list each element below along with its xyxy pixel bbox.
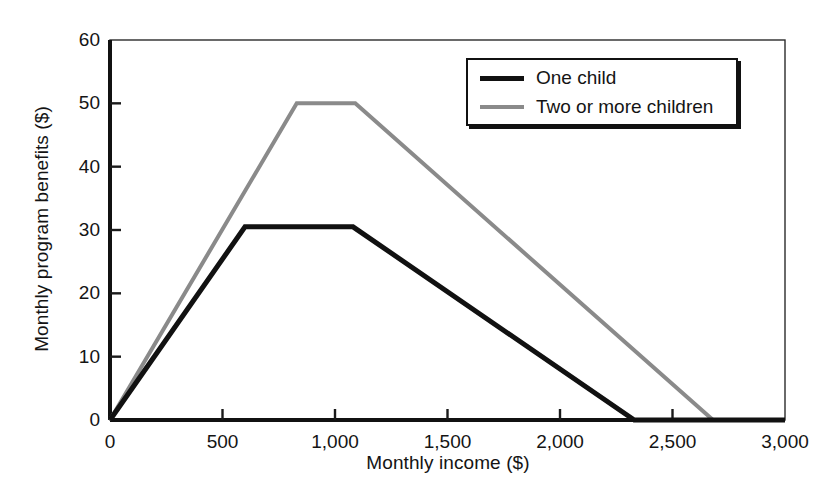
- chart-legend: One child Two or more children: [466, 58, 738, 126]
- y-axis-tick-label: 30: [48, 220, 100, 239]
- x-axis-tick-label: 0: [65, 432, 155, 451]
- y-axis-tick-label: 40: [48, 157, 100, 176]
- legend-label: One child: [536, 67, 616, 89]
- y-axis-tick-label: 50: [48, 93, 100, 112]
- x-axis-tick-label: 2,000: [515, 432, 605, 451]
- chart-series-line: [110, 227, 785, 420]
- chart-series-line: [110, 103, 785, 420]
- y-axis-tick-label: 20: [48, 283, 100, 302]
- x-axis-title: Monthly income ($): [110, 452, 786, 474]
- y-axis-tick-label: 0: [48, 410, 100, 429]
- x-axis-tick-label: 2,500: [628, 432, 718, 451]
- chart-series-group: [110, 103, 785, 420]
- x-axis-tick-label: 500: [178, 432, 268, 451]
- y-axis-tick-label: 10: [48, 347, 100, 366]
- x-axis-tick-label: 1,000: [290, 432, 380, 451]
- legend-item-one-child: One child: [480, 64, 616, 92]
- y-axis-tick-label: 60: [48, 30, 100, 49]
- x-axis-tick-label: 1,500: [403, 432, 493, 451]
- legend-swatch-icon: [480, 105, 524, 109]
- x-axis-tick-label: 3,000: [740, 432, 830, 451]
- legend-label: Two or more children: [536, 96, 713, 118]
- legend-swatch-icon: [480, 76, 524, 81]
- chart-figure: Monthly program benefits ($) Monthly inc…: [0, 0, 832, 498]
- legend-item-two-or-more-children: Two or more children: [480, 93, 713, 121]
